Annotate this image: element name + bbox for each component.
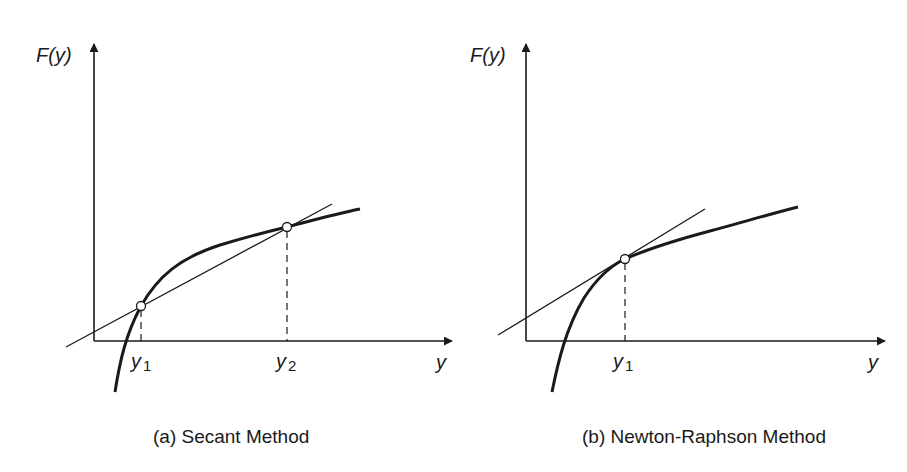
tangent-line	[498, 209, 705, 335]
tick-label-y2: y2	[274, 350, 296, 374]
y-axis-label: F(y)	[36, 44, 72, 66]
panel-newton-raphson: F(y) y y1	[470, 44, 885, 392]
tick-label-y1: y1	[611, 350, 633, 374]
point-y1	[621, 255, 630, 264]
function-curve	[552, 207, 798, 392]
caption-secant: (a) Secant Method	[153, 426, 309, 448]
figure-canvas: F(y) y y1 y2 F(y) y y1	[0, 0, 907, 472]
caption-newton-raphson: (b) Newton-Raphson Method	[582, 426, 826, 448]
tick-label-y1: y1	[129, 350, 151, 374]
x-axis-label: y	[434, 351, 447, 373]
panel-secant: F(y) y y1 y2	[36, 44, 452, 392]
y-axis-label: F(y)	[470, 44, 506, 66]
point-y2	[283, 223, 292, 232]
x-axis-label: y	[866, 351, 879, 373]
point-y1	[137, 302, 146, 311]
secant-line	[66, 204, 332, 347]
